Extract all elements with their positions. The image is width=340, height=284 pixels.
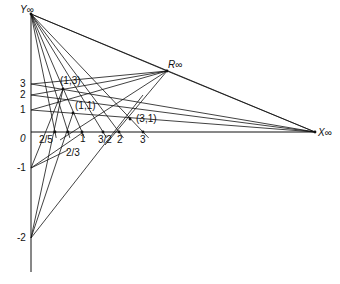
- point-label-1-3: (1,3): [60, 76, 81, 86]
- x-tick-label: 3: [140, 135, 146, 145]
- y-tick-label: -1: [17, 163, 26, 173]
- y-tick-label: 1: [20, 105, 26, 115]
- x-infinity-label: X∞: [318, 128, 332, 138]
- projective-diagram: Y∞ X∞ R∞ 0 2/5 2/3 1 3/2 2 3 3 2 1 -1 -2…: [0, 0, 340, 284]
- y-tick-label: -2: [17, 233, 26, 243]
- point-label-1-1: (1,1): [75, 101, 96, 111]
- r-infinity-label: R∞: [168, 60, 182, 70]
- x-tick-label: 3/2: [98, 135, 112, 145]
- origin-label: 0: [20, 134, 26, 144]
- y-tick-label: 3: [20, 79, 26, 89]
- x-tick-label: 2/3: [66, 148, 80, 158]
- point-label-3-1: (3,1): [136, 114, 157, 124]
- x-tick-label: 2: [117, 135, 123, 145]
- x-tick-label: 1: [80, 134, 86, 144]
- y-tick-label: 2: [20, 90, 26, 100]
- y-infinity-label: Y∞: [20, 5, 34, 15]
- x-tick-label: 2/5: [39, 135, 53, 145]
